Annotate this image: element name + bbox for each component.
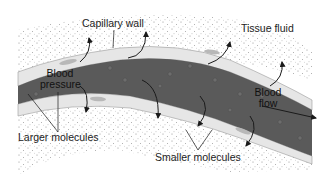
label-blood-pressure: Blood pressure	[40, 68, 80, 90]
label-larger-molecules: Larger molecules	[18, 132, 99, 143]
label-blood-flow: Blood flow	[248, 87, 288, 109]
capillary-diagram: Capillary wall Tissue fluid Blood pressu…	[0, 0, 325, 176]
label-smaller-molecules: Smaller molecules	[155, 152, 241, 163]
label-capillary-wall: Capillary wall	[82, 18, 144, 29]
label-tissue-fluid: Tissue fluid	[241, 23, 294, 34]
